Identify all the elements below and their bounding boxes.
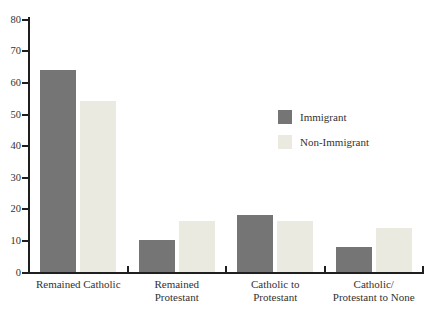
legend: Immigrant Non-Immigrant <box>278 109 369 159</box>
y-tick-label-40: 40 <box>0 139 21 152</box>
x-tick-2 <box>225 266 227 272</box>
legend-item-immigrant: Immigrant <box>278 109 369 124</box>
x-tick-3 <box>324 266 326 272</box>
bar-immigrant-group-1 <box>40 70 76 272</box>
y-tick-label-20: 20 <box>0 202 21 215</box>
bar-immigrant-group-4 <box>336 247 372 272</box>
bar-non-immigrant-group-2 <box>179 221 215 272</box>
legend-label-immigrant: Immigrant <box>300 111 346 123</box>
y-tick-30 <box>22 177 28 179</box>
y-tick-label-0: 0 <box>0 266 21 279</box>
x-tick-4 <box>422 266 424 272</box>
bar-non-immigrant-group-3 <box>277 221 313 272</box>
y-tick-0 <box>22 272 28 274</box>
y-tick-60 <box>22 82 28 84</box>
y-tick-label-10: 10 <box>0 234 21 247</box>
legend-swatch-non-immigrant <box>278 135 292 149</box>
y-tick-40 <box>22 145 28 147</box>
legend-label-non-immigrant: Non-Immigrant <box>300 136 369 148</box>
y-tick-label-50: 50 <box>0 108 21 121</box>
legend-swatch-immigrant <box>278 110 292 124</box>
bar-immigrant-group-2 <box>139 240 175 272</box>
y-tick-label-30: 30 <box>0 171 21 184</box>
y-tick-10 <box>22 240 28 242</box>
x-tick-1 <box>127 266 129 272</box>
y-tick-label-80: 80 <box>0 13 21 26</box>
x-axis-line <box>28 272 424 274</box>
y-tick-50 <box>22 114 28 116</box>
y-tick-20 <box>22 208 28 210</box>
bar-non-immigrant-group-1 <box>80 101 116 272</box>
y-tick-80 <box>22 19 28 21</box>
y-tick-label-60: 60 <box>0 76 21 89</box>
y-tick-70 <box>22 50 28 52</box>
y-tick-label-70: 70 <box>0 44 21 57</box>
legend-item-non-immigrant: Non-Immigrant <box>278 134 369 149</box>
bar-chart-figure: 01020304050607080 Remained CatholicRemai… <box>0 0 438 318</box>
category-label-4: Catholic/ Protestant to None <box>315 278 434 303</box>
y-axis-line <box>28 17 30 274</box>
bar-immigrant-group-3 <box>237 215 273 272</box>
bar-non-immigrant-group-4 <box>376 228 412 272</box>
